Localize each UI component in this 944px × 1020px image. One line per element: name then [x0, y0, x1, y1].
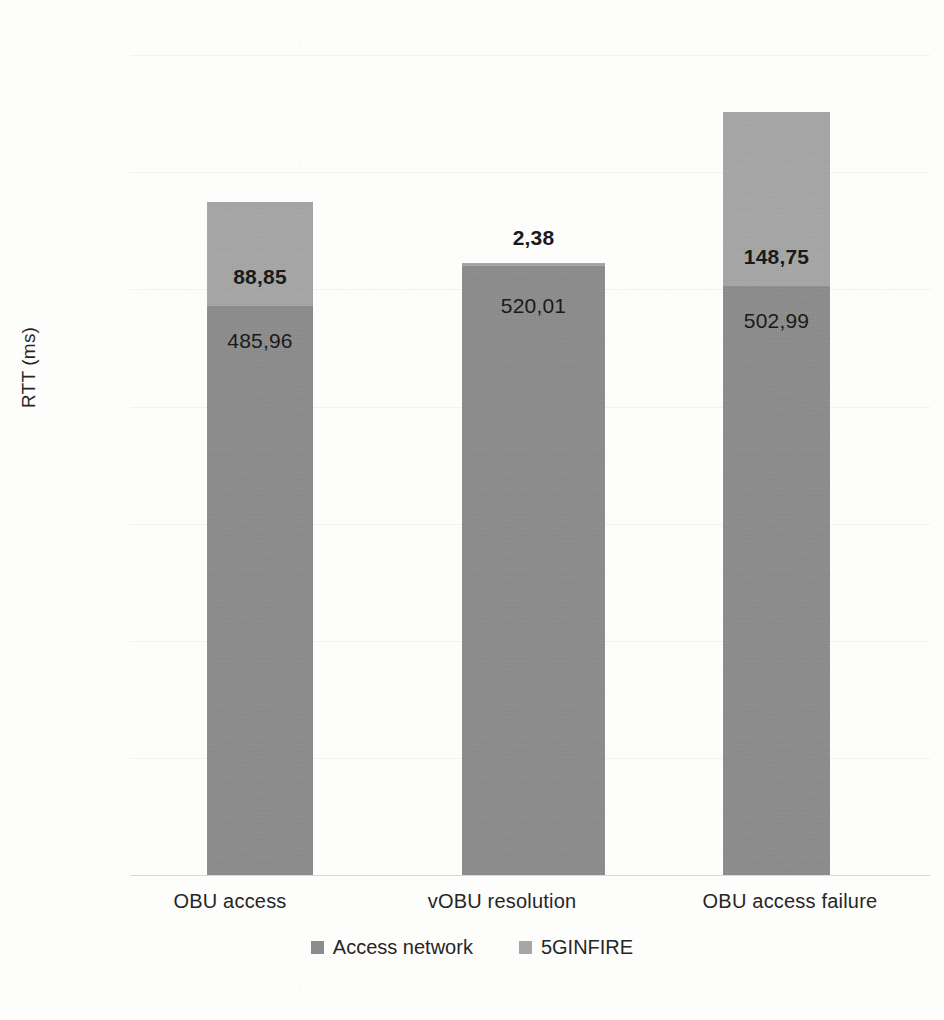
gridline-0-axis [130, 875, 930, 876]
x-tick-obu-access: OBU access [130, 890, 330, 913]
bar-segment-5ginfire-0[interactable] [207, 202, 313, 306]
bar-segment-access-network-0[interactable] [207, 306, 313, 875]
x-tick-vobu-resolution: vOBU resolution [392, 890, 612, 913]
legend-label-5ginfire: 5GINFIRE [541, 936, 633, 959]
legend: Access network 5GINFIRE [0, 936, 944, 959]
legend-swatch-icon-access-network [311, 941, 324, 954]
bar-group-obu-access[interactable]: 88,85 485,96 [207, 202, 313, 875]
bar-label-access-network-0: 485,96 [207, 329, 313, 353]
bar-group-obu-access-failure[interactable]: 148,75 502,99 [723, 112, 830, 875]
bar-label-access-network-1: 520,01 [462, 294, 605, 318]
x-tick-obu-access-failure: OBU access failure [660, 890, 920, 913]
plot-area: 88,85 485,96 2,38 520,01 148,75 502,99 [130, 55, 930, 875]
legend-swatch-icon-5ginfire [519, 941, 532, 954]
rtt-stacked-bar-chart: RTT (ms) 700 600 500 400 300 200 100 0 8… [0, 0, 944, 1020]
bar-segment-access-network-1[interactable] [462, 266, 605, 875]
bar-group-vobu-resolution[interactable]: 2,38 520,01 [462, 263, 605, 875]
bar-segment-access-network-2[interactable] [723, 286, 830, 875]
bar-segment-5ginfire-1[interactable] [462, 263, 605, 266]
gridline-700 [130, 55, 930, 56]
y-axis-title: RTT (ms) [18, 327, 40, 408]
bar-label-5ginfire-2: 148,75 [723, 245, 830, 269]
bar-label-5ginfire-1: 2,38 [462, 226, 605, 250]
bar-label-5ginfire-0: 88,85 [207, 265, 313, 289]
legend-item-access-network[interactable]: Access network [311, 936, 473, 959]
bar-label-access-network-2: 502,99 [723, 309, 830, 333]
legend-label-access-network: Access network [333, 936, 473, 959]
legend-item-5ginfire[interactable]: 5GINFIRE [519, 936, 633, 959]
